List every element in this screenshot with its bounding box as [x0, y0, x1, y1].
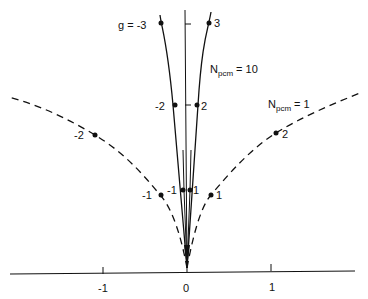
label-g-neg1-n1: -1: [142, 189, 152, 201]
x-tick-label-1: 1: [269, 281, 275, 293]
point-g-neg2-n10: [173, 103, 178, 108]
point-g-neg1-n10: [181, 188, 186, 193]
point-g-1-n10: [188, 188, 193, 193]
label-g-neg1-n10: -1: [167, 184, 177, 196]
label-g-neg2-n10: -2: [155, 100, 165, 112]
label-g-2-n1: 2: [282, 128, 288, 140]
point-g-3: [207, 21, 212, 26]
curve-label-npcm-10: Npcm= 10: [210, 63, 258, 78]
label-g-neg2-n1: -2: [74, 129, 84, 141]
point-g-2-n1: [274, 131, 279, 136]
label-g-1-n10: 1: [193, 184, 199, 196]
point-g-neg3: [159, 21, 164, 26]
x-tick-label-neg1: -1: [98, 282, 108, 294]
label-g-1-n1: 1: [216, 189, 222, 201]
x-tick-label-0: 0: [183, 282, 189, 294]
label-g-2-n10: 2: [201, 100, 207, 112]
curve-label-npcm-1: Npcm= 1: [268, 98, 310, 113]
point-g-1-n1: [209, 193, 214, 198]
point-g-2-n10: [195, 103, 200, 108]
label-g-3: 3: [214, 17, 220, 29]
parametric-curve-diagram: -1 0 1 g = -3 3 -2 2 -1 1 Npcm= 10: [0, 0, 368, 299]
label-g-neg3: g = -3: [118, 19, 146, 31]
point-g-neg2-n1: [93, 133, 98, 138]
curve-npcm-10: g = -3 3 -2 2 -1 1 Npcm= 10: [118, 12, 258, 268]
point-g-neg1-n1: [159, 193, 164, 198]
x-axis: -1 0 1: [10, 264, 355, 294]
